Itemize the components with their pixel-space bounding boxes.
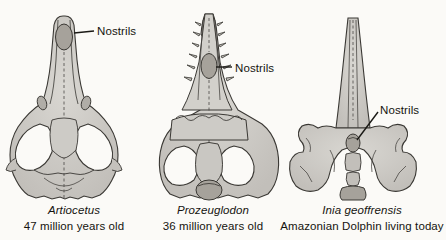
- species-name-artiocetus: Artiocetus: [48, 203, 100, 218]
- species-age-artiocetus: 47 million years old: [24, 218, 124, 234]
- artiocetus-cranial-roof: [50, 118, 78, 158]
- species-age-inia: Amazonian Dolphin living today: [280, 218, 443, 234]
- inia-basicranial-segment-upper: [345, 153, 361, 172]
- nostrils-label-inia: Nostrils: [380, 104, 419, 116]
- species-age-prozeuglodon: 36 million years old: [163, 218, 263, 234]
- inia-nostril-opening: [346, 134, 360, 152]
- prozeuglodon-basicranium: [196, 143, 223, 187]
- prozeuglodon-nostril-opening: [201, 54, 217, 79]
- caption-row: Artiocetus 47 million years old Prozeugl…: [0, 203, 446, 240]
- prozeuglodon-foramen-magnum: [196, 180, 222, 200]
- inia-foramen-magnum: [340, 186, 366, 200]
- caption-artiocetus: Artiocetus 47 million years old: [0, 203, 148, 234]
- nostrils-label-artiocetus: Nostrils: [97, 25, 136, 37]
- artiocetus-nostril-opening: [56, 24, 73, 50]
- inia-basicranial-segment-lower: [346, 172, 360, 186]
- nostrils-label-prozeuglodon: Nostrils: [235, 62, 274, 74]
- caption-inia: Inia geoffrensis Amazonian Dolphin livin…: [278, 203, 446, 234]
- species-name-inia: Inia geoffrensis: [322, 203, 402, 218]
- caption-prozeuglodon: Prozeuglodon 36 million years old: [148, 203, 278, 234]
- species-name-prozeuglodon: Prozeuglodon: [177, 203, 249, 218]
